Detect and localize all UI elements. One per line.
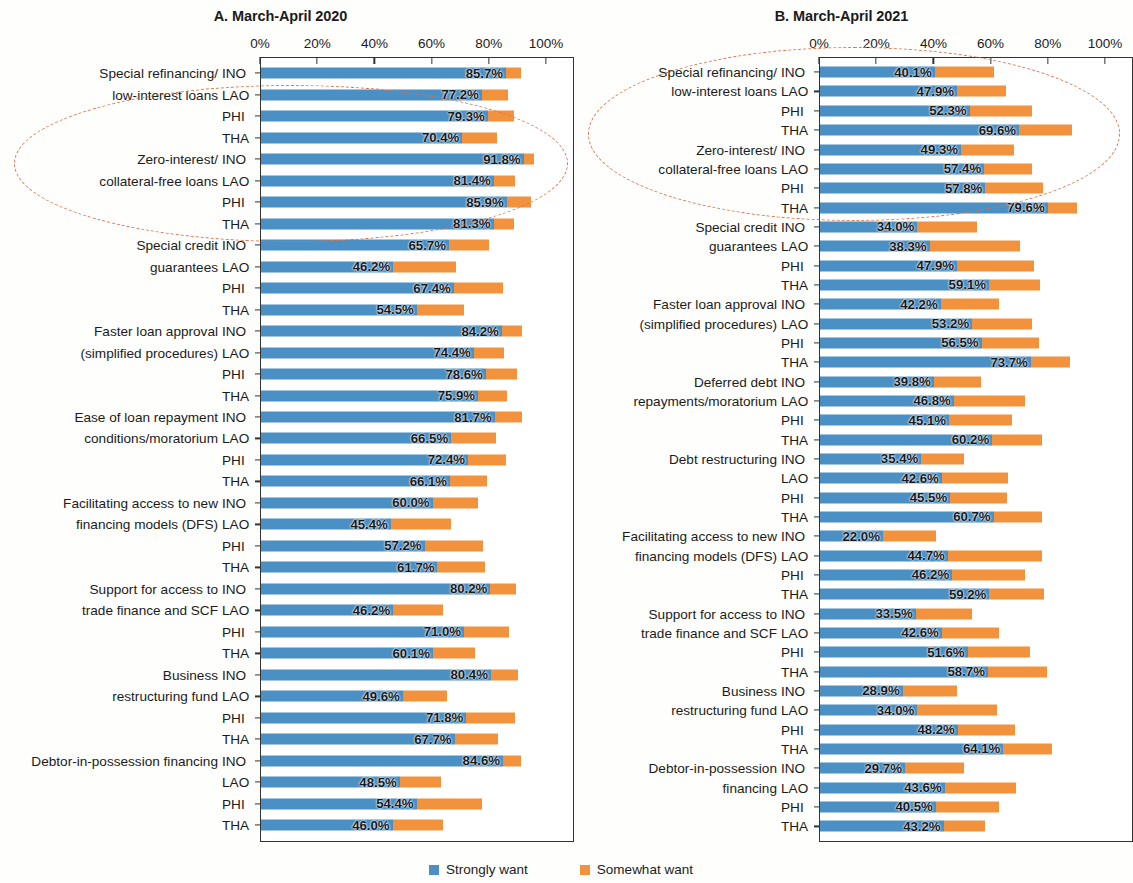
economy-label: PHI [222,452,256,467]
row-axis-tick [814,188,819,189]
chart-row: THA60.2% [561,430,1133,449]
chart-row: trade finance and SCFLAO46.2% [0,600,574,621]
chart-row: THA73.7% [561,353,1133,372]
economy-label: INO [222,152,256,167]
row-axis-tick [255,94,260,95]
bar-track: 79.3% [261,111,547,122]
chart-row: THA43.2% [561,817,1133,836]
chart-row: THA61.7% [0,557,574,578]
row-axis-tick [255,352,260,353]
category-label: Special refinancing/ [561,65,777,80]
economy-label: LAO [781,239,815,254]
bar-segment-somewhat-want [455,734,498,745]
bar-segment-somewhat-want [468,454,506,465]
row-axis-tick [255,825,260,826]
bar-segment-somewhat-want [433,648,475,659]
economy-label: PHI [781,181,815,196]
bar-value-label: 78.6% [445,367,485,382]
row-axis-tick [255,116,260,117]
bar-value-label: 29.7% [865,761,905,776]
legend-swatch-icon [580,865,590,875]
bar-value-label: 74.4% [433,345,473,360]
bar-value-label: 46.2% [353,603,393,618]
bar-track: 39.8% [820,376,1106,387]
chart-row: THA66.1% [0,471,574,492]
economy-label: THA [222,646,256,661]
category-label: financing models (DFS) [0,517,218,532]
chart-row: Debtor-in-possession financingINO84.6% [0,750,574,771]
chart-row: financingLAO43.6% [561,778,1133,797]
row-axis-tick [255,481,260,482]
category-label: Debtor-in-possession financing [0,753,218,768]
bar-track: 42.2% [820,299,1106,310]
bar-segment-somewhat-want [958,724,1015,735]
bar-track: 65.7% [261,240,547,251]
row-axis-tick [814,574,819,575]
chart-row: THA67.7% [0,729,574,750]
bar-segment-somewhat-want [491,669,518,680]
row-axis-tick [255,202,260,203]
bar-value-label: 65.7% [408,238,448,253]
economy-label: LAO [222,431,256,446]
bar-track: 43.6% [820,782,1106,793]
chart-row: Faster loan approvalINO42.2% [561,295,1133,314]
row-axis-tick [814,72,819,73]
economy-label: THA [781,587,815,602]
bar-segment-somewhat-want [957,260,1034,271]
economy-label: THA [781,509,815,524]
category-label: Debt restructuring [561,451,777,466]
bar-segment-somewhat-want [462,132,497,143]
category-label: Business [0,667,218,682]
row-axis-tick [814,497,819,498]
bar-track: 45.5% [820,492,1106,503]
bar-segment-somewhat-want [417,304,464,315]
economy-label: LAO [222,689,256,704]
legend-item: Strongly want [429,862,528,877]
bar-value-label: 60.7% [953,509,993,524]
bar-value-label: 34.0% [877,703,917,718]
bar-track: 61.7% [261,562,547,573]
bar-value-label: 40.5% [895,799,935,814]
bar-track: 70.4% [261,132,547,143]
bar-value-label: 46.0% [352,818,392,833]
bar-track: 66.5% [261,433,547,444]
bar-track: 42.6% [820,627,1106,638]
bar-segment-somewhat-want [992,434,1042,445]
chart-row: PHI48.2% [561,720,1133,739]
chart-row: Zero-interest/INO91.8% [0,148,574,169]
row-axis-tick [814,787,819,788]
economy-label: LAO [781,780,815,795]
bar-track: 48.5% [261,777,547,788]
chart-row: THA59.1% [561,275,1133,294]
bar-value-label: 38.3% [889,239,929,254]
row-axis-tick [814,748,819,749]
bar-segment-somewhat-want [948,550,1042,561]
bar-value-label: 81.3% [453,216,493,231]
economy-label: LAO [781,625,815,640]
bar-value-label: 81.7% [454,410,494,425]
bar-value-label: 33.5% [875,606,915,621]
bar-segment-somewhat-want [935,67,995,78]
row-axis-tick [814,130,819,131]
bar-track: 60.0% [261,497,547,508]
row-axis-tick [255,653,260,654]
chart-row: financing models (DFS)LAO44.7% [561,546,1133,565]
bar-track: 40.1% [820,67,1106,78]
row-axis-tick [814,304,819,305]
bar-track: 60.1% [261,648,547,659]
bar-segment-somewhat-want [930,241,1020,252]
x-axis-tick-label: 80% [475,36,502,51]
chart-row: LAO48.5% [0,772,574,793]
bar-track: 29.7% [820,763,1106,774]
bar-segment-somewhat-want [945,782,1017,793]
economy-label: PHI [781,258,815,273]
bar-track: 71.0% [261,626,547,637]
bar-value-label: 53.2% [932,316,972,331]
bar-value-label: 59.2% [949,587,989,602]
bar-value-label: 57.4% [944,161,984,176]
bar-value-label: 46.2% [912,567,952,582]
row-axis-tick [814,652,819,653]
bar-track: 67.7% [261,734,547,745]
bar-value-label: 79.6% [1007,200,1047,215]
bar-value-label: 84.6% [463,753,503,768]
